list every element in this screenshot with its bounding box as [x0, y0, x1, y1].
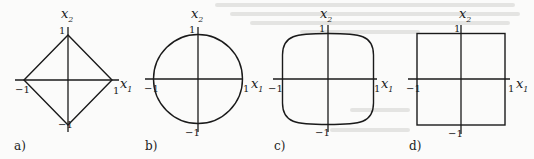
bleed-through-texture: [215, 3, 520, 132]
x2-axis-label: x2: [61, 6, 73, 24]
tick-bottom: −1: [315, 127, 330, 138]
panel-label-c: c): [274, 139, 285, 153]
tick-right: 1: [113, 85, 119, 96]
x1-axis-label: x1: [251, 76, 263, 94]
tick-bottom: −1: [185, 127, 200, 138]
tick-top: 1: [189, 24, 195, 35]
x2-axis-label: x2: [191, 6, 203, 24]
tick-right: 1: [508, 83, 514, 94]
tick-top: 1: [319, 23, 325, 34]
panel-b: x2 1 −1 −1 1 x1 b): [144, 6, 263, 153]
tick-right: 1: [374, 83, 380, 94]
panel-a: x2 1 −1 −1 1 x1 a): [14, 6, 132, 153]
tick-left: −1: [406, 83, 421, 94]
tick-left: −1: [15, 84, 30, 95]
tick-top: 1: [59, 25, 65, 36]
panel-label-d: d): [409, 139, 421, 153]
panel-label-b: b): [145, 139, 157, 153]
x1-axis-label: x1: [120, 76, 132, 94]
x1-axis-label: x1: [381, 76, 393, 94]
tick-top: 1: [454, 23, 460, 34]
tick-left: −1: [144, 83, 159, 94]
panel-d: x2 1 −1 −1 1 x1 d): [406, 6, 528, 153]
tick-left: −1: [268, 83, 283, 94]
tick-bottom: −1: [58, 119, 73, 130]
lp-norm-unit-balls-figure: x2 1 −1 −1 1 x1 a) x2 1 −1 −1 1 x1 b) x2…: [0, 0, 534, 159]
x1-axis-label: x1: [516, 76, 528, 94]
tick-bottom: −1: [448, 128, 463, 139]
tick-right: 1: [243, 83, 249, 94]
panel-label-a: a): [14, 139, 26, 153]
